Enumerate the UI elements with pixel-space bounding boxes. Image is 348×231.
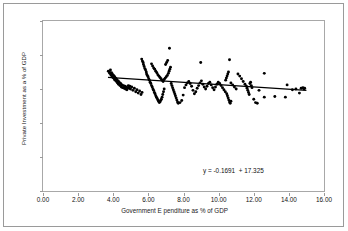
x-tick-mark <box>78 193 79 196</box>
x-tick-label: 10.00 <box>202 197 236 203</box>
x-tick-mark <box>254 193 255 196</box>
chart-figure: Private Investment as a % of GDP 0510152… <box>3 3 344 227</box>
x-tick-mark <box>219 193 220 196</box>
trendline-equation-label: y = -0.1691 + 17.325 <box>203 167 264 174</box>
x-tick-mark <box>324 193 325 196</box>
x-tick-label: 14.00 <box>272 197 306 203</box>
x-tick-label: 8.00 <box>167 197 201 203</box>
x-tick-label: 2.00 <box>61 197 95 203</box>
x-tick-mark <box>148 193 149 196</box>
x-tick-mark <box>184 193 185 196</box>
x-tick-label: 16.00 <box>307 197 341 203</box>
x-tick-mark <box>43 193 44 196</box>
trendline-layer <box>43 21 324 191</box>
y-axis-title: Private Investment as a % of GDP <box>20 29 27 169</box>
trendline <box>108 77 306 90</box>
x-axis-title: Government E penditure as % of GDP <box>4 207 345 214</box>
x-tick-label: 12.00 <box>237 197 271 203</box>
x-tick-mark <box>113 193 114 196</box>
x-tick-mark <box>289 193 290 196</box>
x-tick-label: 6.00 <box>131 197 165 203</box>
x-tick-label: 0.00 <box>26 197 60 203</box>
x-tick-label: 4.00 <box>96 197 130 203</box>
plot-area: 05101520250.002.004.006.008.0010.0012.00… <box>42 20 325 192</box>
y-tick-mark <box>40 191 43 192</box>
